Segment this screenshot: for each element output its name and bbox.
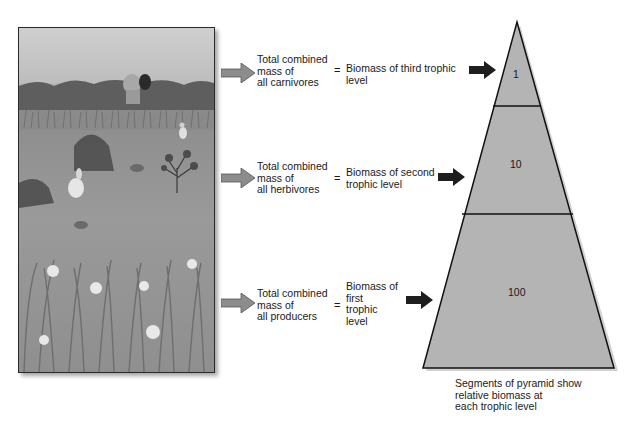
pyramid-segment-third-value: 1 bbox=[513, 68, 519, 80]
pyramid-caption: Segments of pyramid show relative biomas… bbox=[455, 378, 582, 413]
biomass-pyramid bbox=[0, 0, 638, 428]
pyramid-segment-first-value: 100 bbox=[508, 286, 526, 298]
pyramid-segment-second-value: 10 bbox=[510, 158, 522, 170]
